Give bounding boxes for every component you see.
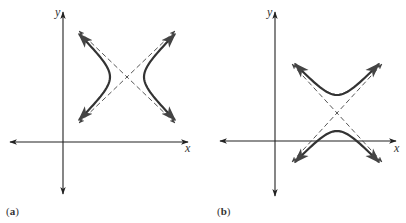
hyperbola-branch	[295, 131, 379, 162]
panel-b-x-axis-label: x	[394, 142, 399, 154]
hyperbola-branch	[79, 34, 110, 120]
panel-a-graph	[10, 12, 188, 194]
panel-a-x-axis-label: x	[185, 142, 190, 154]
panel-a-y-axis-label: y	[55, 6, 60, 18]
panel-b-graph	[220, 12, 396, 196]
paren-close: )	[15, 205, 19, 217]
panel-a-label: (a)	[6, 205, 19, 217]
hyperbola-branch	[295, 64, 379, 95]
paren-close: )	[227, 205, 231, 217]
hyperbola-figure	[0, 0, 406, 223]
panel-b-y-axis-label: y	[267, 6, 272, 18]
panel-b-label: (b)	[217, 205, 230, 217]
hyperbola-branch	[144, 34, 175, 120]
